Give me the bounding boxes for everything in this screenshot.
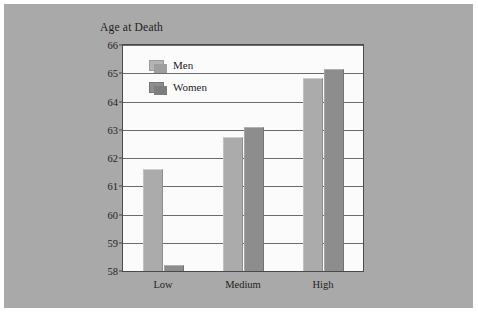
- y-axis-tick-mark: [119, 129, 123, 130]
- page-canvas: Age at Death MenWomen 585960616263646566…: [0, 0, 478, 313]
- x-axis-tick-label: Low: [153, 279, 172, 290]
- x-axis-tick-label: Medium: [225, 279, 261, 290]
- men-swatch: [149, 60, 164, 71]
- chart-legend: MenWomen: [149, 54, 207, 98]
- gridline: [123, 45, 363, 46]
- y-axis-tick-label: 61: [108, 181, 119, 192]
- y-axis-tick-mark: [119, 186, 123, 187]
- bar-medium-women: [244, 127, 264, 271]
- bar-low-men: [143, 169, 163, 271]
- y-axis-tick-label: 62: [108, 153, 119, 164]
- page-title: Age at Death: [100, 21, 163, 33]
- y-axis-tick-label: 60: [108, 209, 119, 220]
- legend-item-label: Men: [173, 59, 193, 71]
- y-axis-tick-mark: [119, 214, 123, 215]
- y-axis-tick-mark: [119, 101, 123, 102]
- chart-figure: Age at Death MenWomen 585960616263646566…: [4, 4, 473, 308]
- y-axis-tick-label: 65: [108, 68, 119, 79]
- y-axis-tick-label: 58: [108, 266, 119, 277]
- legend-item: Women: [149, 76, 207, 98]
- plot-area: MenWomen 585960616263646566 LowMediumHig…: [122, 44, 364, 272]
- y-axis-tick-label: 66: [108, 40, 119, 51]
- x-axis-tick-label: High: [313, 279, 334, 290]
- legend-item: Men: [149, 54, 207, 76]
- bar-low-women: [164, 265, 184, 271]
- women-swatch: [149, 82, 164, 93]
- y-axis-tick-mark: [119, 158, 123, 159]
- bar-high-men: [303, 78, 323, 272]
- bar-medium-men: [223, 137, 243, 271]
- plot-inner: MenWomen: [123, 45, 363, 271]
- y-axis-tick-mark: [119, 45, 123, 46]
- legend-item-label: Women: [173, 81, 207, 93]
- y-axis-tick-mark: [119, 73, 123, 74]
- bar-high-women: [324, 69, 344, 271]
- y-axis-tick-mark: [119, 271, 123, 272]
- y-axis-tick-label: 64: [108, 96, 119, 107]
- y-axis-tick-mark: [119, 242, 123, 243]
- y-axis-tick-label: 63: [108, 124, 119, 135]
- y-axis-tick-label: 59: [108, 237, 119, 248]
